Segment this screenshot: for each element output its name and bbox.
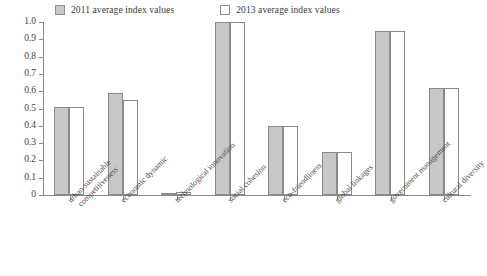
- y-axis-tick-label: 0.8: [24, 51, 36, 61]
- bar-group: [108, 93, 138, 195]
- chart-legend: 2011 average index values 2013 average i…: [55, 2, 340, 18]
- bar: [375, 31, 390, 195]
- y-axis-tick-label: 0.4: [24, 120, 36, 130]
- y-axis-line: [43, 22, 44, 196]
- legend-label-2011: 2011 average index values: [71, 5, 174, 15]
- bar: [54, 107, 69, 195]
- bar: [230, 22, 245, 195]
- bar: [215, 22, 230, 195]
- bar-group: [54, 107, 84, 195]
- x-axis-category-labels: urban sustainablecompetitivenesseconomic…: [43, 198, 471, 276]
- hollow-square-swatch-icon: [220, 5, 230, 15]
- y-axis-tick: 0.5: [39, 109, 43, 110]
- y-axis-tick: 0: [39, 195, 43, 196]
- y-axis-tick-label: 0.9: [24, 33, 36, 43]
- y-axis-tick: 0.3: [39, 143, 43, 144]
- y-axis-tick: 1.0: [39, 22, 43, 23]
- bar-group: [215, 22, 245, 195]
- legend-entry-2011: 2011 average index values: [55, 5, 174, 15]
- y-axis-tick: 0.1: [39, 178, 43, 179]
- y-axis-tick: 0.4: [39, 126, 43, 127]
- legend-entry-2013: 2013 average index values: [220, 5, 340, 15]
- bar: [390, 31, 405, 195]
- y-axis-tick-label: 0: [31, 189, 36, 199]
- x-axis-line: [43, 195, 471, 196]
- y-axis-tick-label: 0.6: [24, 85, 36, 95]
- y-axis-tick: 0.2: [39, 160, 43, 161]
- filled-square-swatch-icon: [55, 5, 65, 15]
- y-axis-tick-label: 0.2: [24, 154, 36, 164]
- y-axis-tick-label: 0.7: [24, 68, 36, 78]
- bar: [161, 193, 176, 195]
- y-axis-tick-label: 0.1: [24, 172, 36, 182]
- bar: [322, 152, 337, 195]
- y-axis-tick: 0.8: [39, 57, 43, 58]
- legend-label-2013: 2013 average index values: [236, 5, 340, 15]
- y-axis-tick-label: 0.3: [24, 137, 36, 147]
- y-axis-tick: 0.9: [39, 39, 43, 40]
- bar-group: [375, 31, 405, 195]
- bar: [268, 126, 283, 195]
- y-axis-tick-label: 1.0: [24, 16, 36, 26]
- y-axis-tick-label: 0.5: [24, 103, 36, 113]
- y-axis-tick: 0.6: [39, 91, 43, 92]
- y-axis-tick: 0.7: [39, 74, 43, 75]
